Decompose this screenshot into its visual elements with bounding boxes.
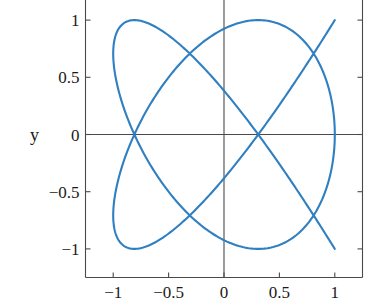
lissajous-figure: y 10.50−0.5−1 −1−0.500.51 — [0, 0, 383, 303]
y-axis-label: y — [30, 126, 39, 144]
y-tick-label: 0.5 — [58, 69, 79, 86]
x-tick-label: −0.5 — [153, 284, 184, 301]
y-tick-label: 0 — [71, 126, 80, 143]
x-tick-label: 0.5 — [269, 284, 290, 301]
x-tick-label: 1 — [331, 284, 340, 301]
y-tick-label: −0.5 — [49, 183, 80, 200]
y-tick-label: 1 — [71, 12, 80, 29]
plot-canvas — [0, 0, 383, 303]
x-tick-label: −1 — [104, 284, 122, 301]
x-tick-label: 0 — [220, 284, 229, 301]
y-tick-label: −1 — [61, 240, 79, 257]
